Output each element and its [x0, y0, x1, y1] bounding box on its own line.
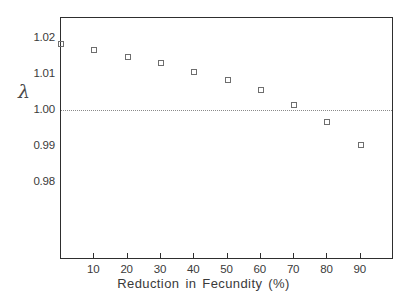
data-point [58, 41, 64, 47]
y-axis-title: λ [12, 80, 36, 102]
x-axis-tick-label: 80 [311, 263, 341, 275]
x-axis-tick [93, 253, 94, 259]
data-point [125, 54, 131, 60]
x-axis-tick-label: 70 [278, 263, 308, 275]
data-point [258, 87, 264, 93]
y-axis-tick-label: 0.98 [9, 175, 55, 187]
x-axis-tick [293, 253, 294, 259]
data-point [191, 69, 197, 75]
x-axis-tick [193, 253, 194, 259]
plot-area [60, 17, 393, 259]
x-axis-tick [160, 253, 161, 259]
y-axis-tick-label: 1.01 [9, 67, 55, 79]
data-point [324, 119, 330, 125]
x-axis-tick-label: 50 [212, 263, 242, 275]
x-axis-tick-label: 20 [112, 263, 142, 275]
x-axis-tick [127, 253, 128, 259]
data-point [291, 102, 297, 108]
data-point [358, 142, 364, 148]
data-point [91, 47, 97, 53]
scatter-chart-figure: λ 1.021.011.000.990.98 10203040506070809… [0, 0, 407, 302]
x-axis-tick-label: 40 [178, 263, 208, 275]
x-axis-tick [360, 253, 361, 259]
data-point [158, 60, 164, 66]
data-point [225, 77, 231, 83]
x-axis-tick [227, 253, 228, 259]
x-axis-tick-label: 10 [78, 263, 108, 275]
x-axis-title: Reduction in Fecundity (%) [0, 276, 407, 291]
x-axis-tick [260, 253, 261, 259]
reference-line-icon [61, 110, 392, 111]
y-axis-tick-label: 0.99 [9, 139, 55, 151]
x-axis-tick-label: 60 [245, 263, 275, 275]
x-axis-tick-label: 90 [345, 263, 375, 275]
x-axis-tick [326, 253, 327, 259]
x-axis-tick-label: 30 [145, 263, 175, 275]
y-axis-tick-label: 1.00 [9, 103, 55, 115]
y-axis-tick-label: 1.02 [9, 31, 55, 43]
